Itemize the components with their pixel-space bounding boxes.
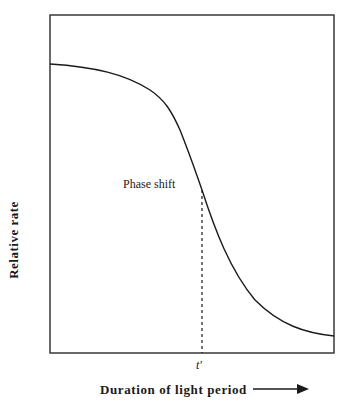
- right-arrow-icon: [253, 383, 309, 395]
- phase-shift-annotation: Phase shift: [123, 177, 175, 192]
- x-axis-label: Duration of light period: [100, 382, 247, 398]
- plot-frame: [50, 15, 334, 353]
- y-axis-label-text: Relative rate: [6, 201, 22, 279]
- y-axis-label: Relative rate: [2, 140, 26, 340]
- x-tick-t-prime: t': [196, 358, 202, 373]
- chart-canvas: [0, 0, 340, 411]
- response-curve: [50, 64, 334, 336]
